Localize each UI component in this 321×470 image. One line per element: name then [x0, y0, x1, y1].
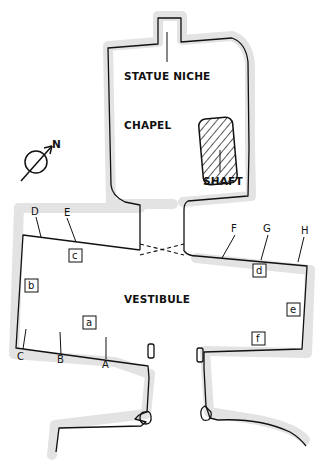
floor-plan: STATUE NICHE CHAPEL SHAFT VESTIBULE N D … — [0, 0, 321, 470]
box-e: e — [287, 303, 300, 316]
box-a: a — [83, 316, 96, 329]
statue-niche-label: STATUE NICHE — [124, 70, 211, 82]
svg-text:c: c — [72, 250, 78, 261]
svg-text:b: b — [28, 280, 34, 291]
marker-C: C — [17, 351, 24, 362]
svg-text:e: e — [290, 304, 296, 315]
jamb-left — [148, 344, 154, 358]
box-f: f — [252, 332, 265, 345]
svg-text:d: d — [256, 265, 262, 276]
svg-text:a: a — [86, 317, 92, 328]
marker-D: D — [31, 206, 39, 217]
north-compass-icon: N — [21, 138, 61, 181]
marker-E: E — [64, 207, 70, 218]
box-c: c — [69, 249, 82, 262]
passage-dashes — [140, 244, 184, 255]
vestibule-label: VESTIBULE — [124, 293, 190, 305]
marker-F: F — [231, 223, 237, 234]
svg-text:f: f — [256, 333, 260, 344]
box-d: d — [253, 264, 266, 277]
marker-B: B — [57, 354, 64, 365]
box-b: b — [25, 279, 38, 292]
marker-G: G — [263, 223, 271, 234]
marker-H: H — [301, 225, 309, 236]
marker-A: A — [102, 359, 109, 370]
shaft-label: SHAFT — [203, 175, 243, 187]
chapel-label: CHAPEL — [124, 119, 171, 131]
north-label: N — [52, 138, 61, 150]
